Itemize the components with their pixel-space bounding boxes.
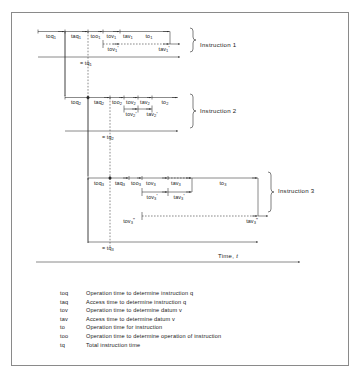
legend-description: Total instruction time bbox=[86, 342, 140, 348]
label-to2: to2 bbox=[161, 100, 168, 105]
legend-symbol: to bbox=[60, 324, 86, 330]
label-tov3: tov3 bbox=[146, 181, 156, 186]
label-tav3: tav3 bbox=[171, 181, 181, 186]
label-tav1-prime: tav1' bbox=[159, 47, 170, 52]
label-taq2: taq2 bbox=[94, 100, 104, 105]
label-taq3: taq3 bbox=[115, 181, 125, 186]
legend-description: Operation time to determine instruction … bbox=[86, 290, 193, 296]
label-tav2-prime: tav2' bbox=[147, 112, 158, 117]
brace-label-instruction-3: Instruction 3 bbox=[278, 188, 314, 194]
legend-symbol: tq bbox=[60, 342, 86, 348]
legend-row: to Operation time for instruction bbox=[60, 324, 221, 333]
legend-description: Operation time to determine datum v bbox=[86, 307, 182, 313]
label-toq1: toq1toq1 bbox=[46, 34, 56, 39]
instruction-1-group bbox=[38, 28, 196, 97]
label-to1: to1 bbox=[145, 34, 152, 39]
legend-symbol: too bbox=[60, 333, 86, 339]
label-tov2: tov2 bbox=[126, 100, 136, 105]
legend-symbol: toq bbox=[60, 290, 86, 296]
label-tq3: = tq3 bbox=[102, 246, 114, 251]
label-tov2-prime: tov2' bbox=[126, 112, 137, 117]
figure-root: toq1toq1 taq1 too1 tov1 tav1 to1 tov1' t… bbox=[0, 0, 360, 377]
time-axis-label: Time, t bbox=[218, 253, 238, 259]
instruction-2-group bbox=[65, 94, 196, 177]
legend-symbol: taq bbox=[60, 299, 86, 305]
label-tq1: = tq1 bbox=[80, 61, 92, 66]
label-tq2: = tq2 bbox=[102, 135, 114, 140]
label-tav1: tav1 bbox=[123, 34, 133, 39]
label-to3: to3 bbox=[219, 181, 226, 186]
legend-row: taq Access time to determine instruction… bbox=[60, 299, 221, 308]
legend-symbol: tav bbox=[60, 316, 86, 322]
label-toq3: toq3 bbox=[94, 181, 104, 186]
label-tav3-prime: tav3' bbox=[174, 195, 185, 200]
label-tav2: tav2 bbox=[140, 100, 150, 105]
label-toq2: toq2 bbox=[71, 100, 81, 105]
legend-symbol: tov bbox=[60, 307, 86, 313]
legend-row: tav Access time to determine datum v bbox=[60, 316, 221, 325]
legend-description: Operation time to determine operation of… bbox=[86, 333, 221, 339]
label-taq1: taq1 bbox=[71, 34, 81, 39]
legend-row: tov Operation time to determine datum v bbox=[60, 307, 221, 316]
label-tav3-dprime: tav3" bbox=[246, 219, 258, 224]
label-tov1: tov1 bbox=[107, 34, 117, 39]
legend-row: toq Operation time to determine instruct… bbox=[60, 290, 221, 299]
legend-row: tq Total instruction time bbox=[60, 342, 221, 351]
legend-description: Access time to determine instruction q bbox=[86, 299, 186, 305]
label-too3: too3 bbox=[131, 181, 141, 186]
label-tov3-prime: tov3' bbox=[147, 195, 158, 200]
legend: toq Operation time to determine instruct… bbox=[60, 290, 221, 350]
legend-row: too Operation time to determine operatio… bbox=[60, 333, 221, 342]
legend-description: Access time to determine datum v bbox=[86, 316, 175, 322]
brace-label-instruction-1: Instruction 1 bbox=[200, 42, 236, 48]
label-tov1-prime: tov1' bbox=[108, 47, 119, 52]
legend-description: Operation time for instruction bbox=[86, 324, 162, 330]
label-tov3-dprime: tov3" bbox=[123, 219, 135, 224]
brace-label-instruction-2: Instruction 2 bbox=[200, 108, 236, 114]
label-too1: too1 bbox=[90, 34, 100, 39]
label-too2: too2 bbox=[112, 100, 122, 105]
